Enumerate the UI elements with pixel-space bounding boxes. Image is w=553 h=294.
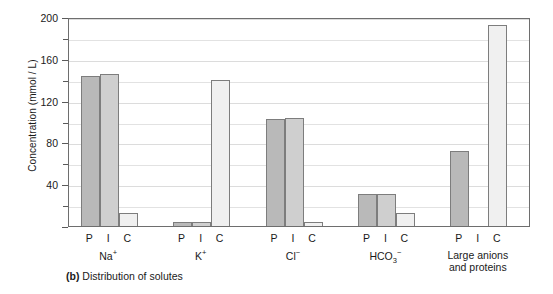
figure-caption: (b) Distribution of solutes — [66, 270, 183, 282]
gridline — [69, 19, 529, 20]
x-tick-label-I: I — [286, 233, 300, 244]
x-tick-label-P: P — [175, 233, 189, 244]
group-label-na⁺: Na+ — [63, 249, 153, 262]
plot-area — [68, 18, 530, 227]
bar-hco₃⁻-I — [377, 194, 396, 226]
y-axis-tick-label: 160 — [18, 55, 58, 66]
group-label-k⁺: K+ — [156, 249, 246, 262]
y-axis-tick-label: 120 — [18, 97, 58, 108]
y-axis-tick-major — [62, 227, 68, 228]
x-tick-label-C: C — [213, 233, 227, 244]
bar-hco₃⁻-C — [396, 213, 415, 226]
group-label-large-anions-and-proteins: Large anionsand proteins — [433, 249, 523, 273]
y-axis-tick-label: 40 — [18, 180, 58, 191]
gridline — [69, 40, 529, 41]
group-label-hco₃⁻: HCO3− — [340, 249, 430, 265]
x-tick-label-C: C — [490, 233, 504, 244]
x-tick-label-I: I — [101, 233, 115, 244]
y-axis-tick-label: 80 — [18, 138, 58, 149]
bar-na⁺-P — [81, 76, 100, 226]
x-tick-label-I: I — [471, 233, 485, 244]
bar-cl⁻-C — [304, 222, 323, 226]
x-tick-label-C: C — [397, 233, 411, 244]
figure-distribution-of-solutes: Concentration (mmol / L) 4080120160200 P… — [0, 0, 553, 294]
group-label-cl⁻: Cl− — [248, 249, 338, 262]
bar-cl⁻-I — [285, 118, 304, 226]
bar-k⁺-C — [211, 80, 230, 226]
gridline — [69, 61, 529, 62]
bar-k⁺-I — [192, 222, 211, 226]
bar-na⁺-C — [119, 213, 138, 226]
caption-text: Distribution of solutes — [82, 270, 182, 282]
bar-large-anions-and-proteins-C — [488, 25, 507, 226]
bar-k⁺-P — [173, 222, 192, 226]
gridline — [69, 103, 529, 104]
bar-cl⁻-P — [266, 119, 285, 226]
x-tick-label-C: C — [120, 233, 134, 244]
x-tick-label-I: I — [378, 233, 392, 244]
y-axis-title: Concentration (mmol / L) — [27, 6, 38, 226]
caption-prefix: (b) — [66, 270, 79, 282]
x-tick-label-P: P — [359, 233, 373, 244]
bar-large-anions-and-proteins-P — [450, 151, 469, 226]
x-tick-label-P: P — [82, 233, 96, 244]
bar-hco₃⁻-P — [358, 194, 377, 226]
bar-na⁺-I — [100, 74, 119, 226]
y-axis-tick-label: 200 — [18, 13, 58, 24]
gridline — [69, 82, 529, 83]
x-tick-label-I: I — [194, 233, 208, 244]
x-tick-label-P: P — [267, 233, 281, 244]
x-tick-label-C: C — [305, 233, 319, 244]
x-tick-label-P: P — [452, 233, 466, 244]
